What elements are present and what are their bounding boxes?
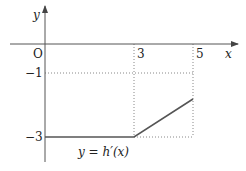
y-axis-label: y (32, 8, 40, 22)
x-tick-5: 5 (196, 47, 204, 61)
x-tick-3: 3 (137, 47, 145, 61)
origin-label: O (33, 47, 43, 61)
y-tick-minus3: −3 (25, 130, 43, 144)
y-tick-minus1: −1 (25, 66, 43, 80)
x-axis-label: x (225, 47, 232, 61)
guide-lines (45, 44, 193, 137)
function-graph: y x O 3 5 −1 −3 y = h′(x) (0, 0, 246, 171)
curve-h-prime (45, 99, 193, 137)
curve-label: y = h′(x) (77, 145, 129, 159)
